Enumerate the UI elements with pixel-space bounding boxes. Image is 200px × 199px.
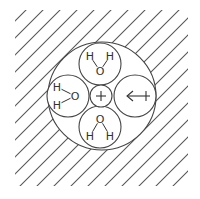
hydrogen-atom: H: [106, 50, 114, 63]
hydrogen-atom: H: [53, 81, 61, 94]
oxygen-atom: O: [96, 113, 105, 126]
water-molecule-left: HHO: [47, 75, 89, 117]
hatch-line: [0, 0, 12, 199]
hydrogen-atom: H: [106, 130, 114, 143]
hydrogen-atom: H: [86, 50, 94, 63]
oxygen-atom: O: [71, 90, 80, 103]
hydrogen-atom: H: [86, 130, 94, 143]
hatch-line: [178, 0, 200, 199]
water-molecule-right: [114, 75, 156, 117]
oxygen-atom: O: [96, 65, 105, 78]
hatch-line: [0, 0, 29, 199]
hatch-line: [161, 0, 200, 199]
cation: [90, 85, 112, 107]
hydrated-ion-diagram: HHOHHOOHH: [0, 0, 200, 199]
water-molecule-bottom: OHH: [79, 106, 121, 148]
water-molecule-top: HHO: [79, 43, 121, 85]
hydrogen-atom: H: [53, 99, 61, 112]
hatch-line: [195, 0, 200, 199]
